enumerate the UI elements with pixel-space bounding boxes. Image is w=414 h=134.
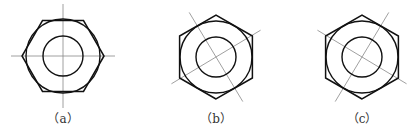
figure-c-hex-nut bbox=[317, 12, 406, 101]
label-b: （b） bbox=[196, 109, 236, 126]
figure-b-hex-nut bbox=[171, 12, 260, 101]
label-c: （c） bbox=[342, 109, 382, 126]
figure-a-hex-nut bbox=[11, 4, 115, 108]
label-a: （a） bbox=[43, 109, 83, 126]
